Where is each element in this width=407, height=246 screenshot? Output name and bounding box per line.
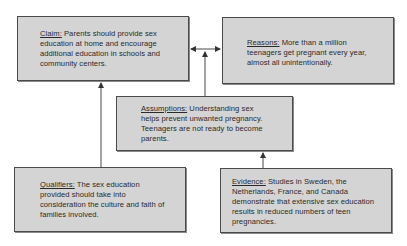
assumptions-box: Assumptions: Understanding sex helps pre… <box>116 96 293 151</box>
qualifiers-box: Qualifiers: The sex education provided s… <box>14 167 186 232</box>
reasons-box: Reasons: More than a million teenagers g… <box>222 17 394 84</box>
qualifiers-label: Qualifiers: <box>40 180 75 189</box>
evidence-box: Evidence: Studies in Sweden, the Netherl… <box>220 168 392 233</box>
evidence-label: Evidence: <box>232 177 266 186</box>
claim-label: Claim: <box>40 29 62 38</box>
reasons-label: Reasons: <box>247 38 279 47</box>
assumptions-label: Assumptions: <box>141 104 187 113</box>
claim-box: Claim: Parents should provide sex educat… <box>17 16 189 81</box>
